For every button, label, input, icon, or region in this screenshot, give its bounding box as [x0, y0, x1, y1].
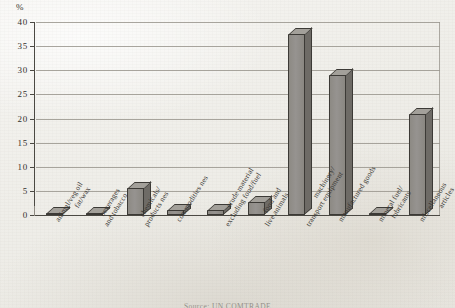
- y-tick-label: 10: [2, 162, 28, 172]
- grid-line: [36, 119, 440, 120]
- y-tick-label: 25: [2, 89, 28, 99]
- chart-page: % 4035302520151050 animal/veg oilfat/wax…: [0, 0, 455, 308]
- bar: [409, 114, 426, 215]
- y-axis-line: [34, 22, 35, 216]
- bar-side-face: [304, 27, 312, 215]
- grid-line: [36, 22, 440, 23]
- grid-line: [36, 143, 440, 144]
- grid-line: [36, 167, 440, 168]
- bar-front-face: [288, 34, 305, 215]
- grid-line: [36, 94, 440, 95]
- grid-line: [36, 70, 440, 71]
- y-tick-label: 20: [2, 114, 28, 124]
- y-tick-label: 15: [2, 138, 28, 148]
- source-caption: Source: UN COMTRADE: [0, 302, 455, 308]
- bar: [288, 34, 305, 215]
- bar-front-face: [409, 114, 426, 215]
- y-axis-unit-label: %: [16, 2, 24, 12]
- y-tick-label: 5: [2, 186, 28, 196]
- y-tick-label: 0: [2, 210, 28, 220]
- y-tick-label: 40: [2, 17, 28, 27]
- y-tick-label: 35: [2, 41, 28, 51]
- y-tick-label: 30: [2, 65, 28, 75]
- grid-line: [36, 46, 440, 47]
